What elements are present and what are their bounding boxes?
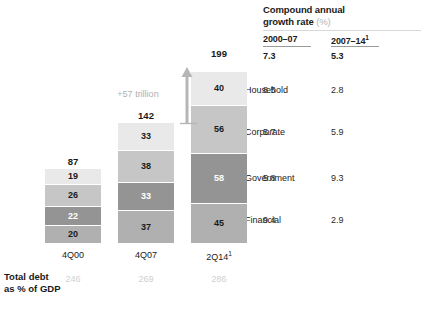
segment-value-4q00-financial: 20 (68, 230, 78, 239)
cagr-total-2000-07: 7.3 (263, 51, 276, 61)
bar-2q14: 40 56 58 45 (191, 72, 247, 243)
segment-value-4q07-government: 33 (141, 192, 151, 201)
cagr-value-corporate-2007-14: 5.9 (331, 127, 344, 137)
segment-value-4q07-financial: 37 (141, 223, 151, 232)
x-axis-label-4q07-text: 4Q07 (135, 250, 157, 260)
segment-4q07-household: 33 (118, 123, 174, 151)
bar-total-2q14: 199 (191, 48, 247, 59)
total-debt-value-4q00: 246 (53, 274, 93, 284)
chart-canvas: Compound annual growth rate (%) 2000–07 … (0, 0, 423, 311)
segment-value-4q00-corporate: 26 (68, 191, 78, 200)
cagr-value-financial-2007-14: 2.9 (331, 215, 344, 225)
cagr-value-corporate-2000-07: 5.7 (263, 127, 276, 137)
total-debt-value-4q07: 269 (126, 274, 166, 284)
footnote-marker-column: 1 (365, 34, 369, 41)
segment-4q07-corporate: 38 (118, 151, 174, 183)
cagr-value-household-2007-14: 2.8 (331, 85, 344, 95)
cagr-column-header-2000-07-text: 2000–07 (263, 34, 297, 44)
segment-value-2q14-corporate: 56 (214, 125, 224, 134)
segment-4q00-financial: 20 (45, 226, 101, 243)
cagr-heading: Compound annual growth rate (%) (263, 4, 421, 27)
cagr-heading-line2: growth rate (263, 16, 314, 27)
segment-4q07-financial: 37 (118, 211, 174, 243)
total-debt-value-2q14: 286 (199, 274, 239, 284)
segment-2q14-government: 58 (191, 154, 247, 204)
cagr-column-header-2007-14-text: 2007–14 (331, 36, 365, 46)
cagr-value-government-2000-07: 5.8 (263, 173, 276, 183)
segment-value-2q14-government: 58 (214, 174, 224, 183)
bar-4q00: 19 26 22 20 (45, 169, 101, 243)
segment-2q14-financial: 45 (191, 204, 247, 243)
segment-value-4q07-household: 33 (141, 132, 151, 141)
cagr-heading-divider (263, 30, 421, 31)
cagr-heading-line1: Compound annual (263, 4, 345, 15)
bar-4q07: 33 38 33 37 (118, 123, 174, 243)
x-axis-label-2q14: 2Q141 (191, 250, 247, 262)
delta-arrow-icon (176, 66, 198, 128)
cagr-column-header-2007-14: 2007–141 (331, 34, 369, 46)
segment-value-4q00-government: 22 (68, 212, 78, 221)
segment-4q00-government: 22 (45, 207, 101, 226)
x-axis-label-2q14-text: 2Q14 (206, 252, 228, 262)
total-debt-label-line1: Total debt (4, 271, 49, 282)
segment-2q14-household: 40 (191, 72, 247, 106)
segment-value-4q00-household: 19 (68, 172, 78, 181)
cagr-column-header-2000-07: 2000–07 (263, 34, 297, 44)
segment-4q07-government: 33 (118, 183, 174, 211)
cagr-unit: (%) (316, 16, 330, 27)
segment-value-2q14-household: 40 (214, 84, 224, 93)
cagr-value-government-2007-14: 9.3 (331, 173, 344, 183)
x-axis-label-4q07: 4Q07 (118, 250, 174, 260)
segment-value-4q07-corporate: 38 (141, 162, 151, 171)
segment-value-2q14-financial: 45 (214, 219, 224, 228)
cagr-value-financial-2000-07: 9.4 (263, 215, 276, 225)
total-debt-label-line2: as % of GDP (4, 283, 61, 294)
x-axis-label-4q00-text: 4Q00 (62, 250, 84, 260)
footnote-marker-2q14: 1 (228, 250, 232, 257)
cagr-column-divider-2 (331, 46, 379, 47)
delta-annotation-label: +57 trillion (98, 89, 178, 99)
cagr-value-household-2000-07: 8.5 (263, 85, 276, 95)
bar-total-4q07: 142 (118, 110, 174, 121)
x-axis-label-4q00: 4Q00 (45, 250, 101, 260)
segment-2q14-corporate: 56 (191, 106, 247, 154)
segment-4q00-household: 19 (45, 169, 101, 185)
cagr-total-2007-14: 5.3 (331, 51, 344, 61)
segment-4q00-corporate: 26 (45, 185, 101, 207)
bar-total-4q00: 87 (45, 156, 101, 167)
cagr-column-divider-1 (263, 46, 311, 47)
